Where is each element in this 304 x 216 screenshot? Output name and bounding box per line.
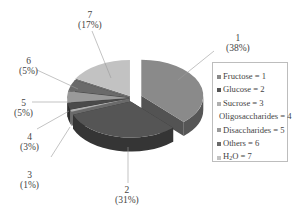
chart-legend: Fructose = 1 Glucose = 2 Sucrose = 3 Oli… [212,62,288,162]
slice-label-4: 4 (3%) [20,132,39,152]
legend-item-oligosaccharides: Oligosaccharides = 4 [217,110,287,123]
legend-swatch [217,128,221,132]
leader-3 [51,127,70,157]
legend-item-water: H2O = 7 [217,150,287,165]
legend-swatch [217,75,221,79]
legend-item-disaccharides: Disaccharides = 5 [217,124,287,137]
slice-label-6: 6 (5%) [19,56,38,76]
slice-label-1: 1 (38%) [226,33,250,53]
slice-label-2: 2 (31%) [115,185,139,205]
legend-item-others: Others = 6 [217,137,287,150]
slice-side-3 [70,110,71,126]
legend-swatch [217,156,221,160]
leader-4 [37,111,69,129]
legend-swatch [217,142,221,146]
slice-label-5: 5 (5%) [14,98,33,118]
pie-slices [67,60,203,152]
legend-item-glucose: Glucose = 2 [217,83,287,96]
legend-swatch [217,102,221,106]
slice-label-7: 7 (17%) [78,10,102,30]
slice-label-3: 3 (1%) [20,170,39,190]
leader-1 [178,51,214,80]
legend-item-sucrose: Sucrose = 3 [217,97,287,110]
legend-swatch [217,88,221,92]
leader-6 [37,70,78,89]
legend-item-fructose: Fructose = 1 [217,70,287,83]
